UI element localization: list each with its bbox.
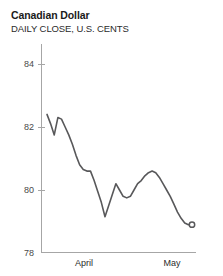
x-tick-label-april: April bbox=[54, 258, 114, 268]
y-tick-label-84: 84 bbox=[8, 59, 34, 69]
axis-lines bbox=[42, 44, 197, 253]
line-chart-plot bbox=[0, 0, 223, 276]
last-point-marker bbox=[189, 222, 194, 227]
y-tick-label-78: 78 bbox=[8, 248, 34, 258]
chart-figure: Canadian Dollar DAILY CLOSE, U.S. CENTS … bbox=[0, 0, 223, 276]
y-tick-label-80: 80 bbox=[8, 185, 34, 195]
data-series-line bbox=[47, 114, 192, 224]
y-tick-label-82: 82 bbox=[8, 122, 34, 132]
x-tick-label-may: May bbox=[142, 258, 202, 268]
